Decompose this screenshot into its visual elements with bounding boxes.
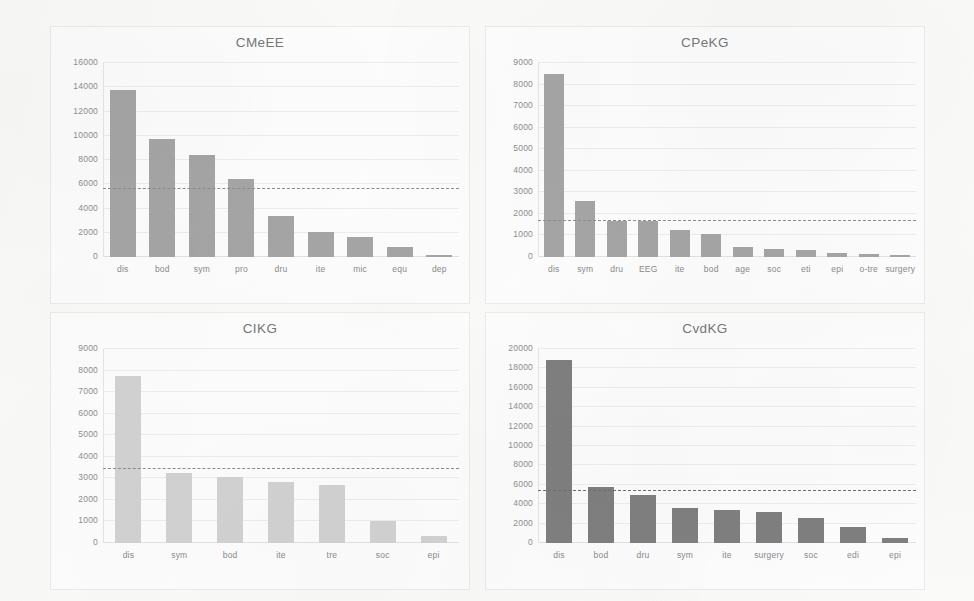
bar-group: sym [570, 63, 602, 257]
y-axis-tick-label: 8000 [513, 459, 533, 469]
bar-group: pro [222, 63, 262, 257]
x-axis-tick-label: ite [316, 264, 326, 274]
bar-group: dis [103, 349, 154, 543]
bar-dis [115, 376, 141, 543]
bar-ite [268, 482, 294, 543]
chart-panel-cvdkg: CvdKG 0200040006000800010000120001400016… [485, 312, 925, 590]
x-axis-tick-label: dis [548, 264, 559, 274]
bar-eti [796, 250, 816, 257]
x-axis-tick-label: ite [722, 550, 732, 560]
bar-group: sym [182, 63, 222, 257]
y-axis-tick-label: 1000 [513, 229, 533, 239]
bar-epi [882, 538, 908, 543]
x-axis-tick-label: surgery [885, 264, 915, 274]
bar-soc [798, 518, 824, 543]
y-axis-tick-label: 9000 [513, 57, 533, 67]
x-axis-tick-label: edi [847, 550, 859, 560]
x-axis-tick-label: epi [428, 550, 440, 560]
x-axis-tick-label: soc [804, 550, 818, 560]
bar-group: surgery [748, 349, 790, 543]
y-axis-tick-label: 4000 [78, 203, 98, 213]
x-axis-tick-label: dru [637, 550, 650, 560]
x-axis-tick-label: eti [801, 264, 811, 274]
x-axis-tick-label: equ [392, 264, 407, 274]
y-axis-tick-label: 2000 [513, 518, 533, 528]
chart-title-cmeee: CMeEE [51, 35, 469, 50]
bar-pro [228, 179, 254, 257]
bar-ite [670, 230, 690, 257]
y-axis-tick-label: 10000 [508, 440, 533, 450]
x-axis-tick-label: mic [353, 264, 367, 274]
y-axis-tick-label: 5000 [78, 429, 98, 439]
x-axis-tick-label: bod [594, 550, 609, 560]
x-axis-tick-label: sym [577, 264, 593, 274]
bar-ite [308, 232, 334, 257]
x-axis-tick-label: epi [889, 550, 901, 560]
bar-bod [588, 487, 614, 543]
x-axis-tick-label: o-tre [860, 264, 878, 274]
x-axis-tick-label: ite [675, 264, 685, 274]
y-axis-tick-label: 7000 [513, 100, 533, 110]
plot-area-cmeee: 0200040006000800010000120001400016000 di… [103, 63, 459, 257]
bar-group: soc [759, 63, 791, 257]
y-axis-tick-label: 8000 [513, 79, 533, 89]
y-axis-tick-label: 6000 [78, 408, 98, 418]
y-axis-tick-label: 6000 [513, 479, 533, 489]
x-axis-tick-label: soc [767, 264, 781, 274]
bar-group: ite [706, 349, 748, 543]
bar-series-cikg: dissymboditetresocepi [103, 349, 459, 543]
bar-group: surgery [885, 63, 917, 257]
bar-bod [149, 139, 175, 257]
bar-group: ite [256, 349, 307, 543]
bar-soc [370, 521, 396, 543]
x-axis-tick-label: bod [704, 264, 719, 274]
y-axis-tick-label: 10000 [73, 130, 98, 140]
x-axis-tick-label: sym [194, 264, 210, 274]
bar-dis [110, 90, 136, 257]
plot-area-cikg: 0100020003000400050006000700080009000 di… [103, 349, 459, 543]
bar-group: ite [664, 63, 696, 257]
bar-tre [319, 485, 345, 543]
x-axis-tick-label: surgery [754, 550, 784, 560]
x-axis-tick-label: dru [275, 264, 288, 274]
bar-group: dep [420, 63, 460, 257]
bar-group: o-tre [853, 63, 885, 257]
y-axis-tick-label: 3000 [513, 186, 533, 196]
chart-panel-cpekg: CPeKG 0100020003000400050006000700080009… [485, 26, 925, 304]
bar-group: dru [601, 63, 633, 257]
bar-group: age [727, 63, 759, 257]
bar-group: epi [822, 63, 854, 257]
x-axis-tick-label: EEG [639, 264, 658, 274]
x-axis-tick-label: soc [376, 550, 390, 560]
y-axis-tick-label: 6000 [78, 178, 98, 188]
x-axis-tick-label: sym [171, 550, 187, 560]
x-axis-tick-label: age [735, 264, 750, 274]
bar-surgery [756, 512, 782, 543]
bar-group: soc [357, 349, 408, 543]
bar-group: bod [143, 63, 183, 257]
bar-equ [387, 247, 413, 257]
bar-o-tre [859, 254, 879, 257]
bar-group: bod [205, 349, 256, 543]
plot-area-cvdkg: 0200040006000800010000120001400016000180… [538, 349, 916, 543]
bar-group: eti [790, 63, 822, 257]
bar-dep [426, 255, 452, 257]
y-axis-tick-label: 8000 [78, 365, 98, 375]
y-axis-tick-label: 14000 [508, 401, 533, 411]
x-axis-tick-label: dep [432, 264, 447, 274]
bar-dru [630, 495, 656, 543]
bar-group: sym [664, 349, 706, 543]
bar-dis [544, 74, 564, 257]
y-axis-tick-label: 1000 [78, 515, 98, 525]
x-axis-tick-label: dis [123, 550, 134, 560]
bar-group: dru [622, 349, 664, 543]
y-axis-tick-label: 0 [93, 537, 98, 547]
chart-title-cikg: CIKG [51, 321, 469, 336]
mean-line-cpekg [538, 220, 916, 221]
bar-group: EEG [633, 63, 665, 257]
y-axis-tick-label: 12000 [508, 421, 533, 431]
y-axis-tick-label: 7000 [78, 386, 98, 396]
chart-grid: CMeEE 0200040006000800010000120001400016… [0, 0, 974, 601]
bar-group: bod [696, 63, 728, 257]
chart-title-cpekg: CPeKG [486, 35, 924, 50]
